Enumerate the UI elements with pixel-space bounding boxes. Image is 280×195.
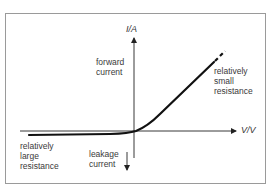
forward-current-label: forward current — [96, 57, 124, 77]
x-axis-label: V/V — [241, 125, 256, 135]
relatively-small-resistance-label: relatively small resistance — [214, 66, 253, 96]
leakage-current-label: leakage current — [89, 149, 119, 169]
y-axis-label: I/A — [126, 24, 137, 34]
relatively-large-resistance-label: relatively large resistance — [20, 141, 59, 171]
iv-curve-extrapolation — [215, 51, 225, 61]
